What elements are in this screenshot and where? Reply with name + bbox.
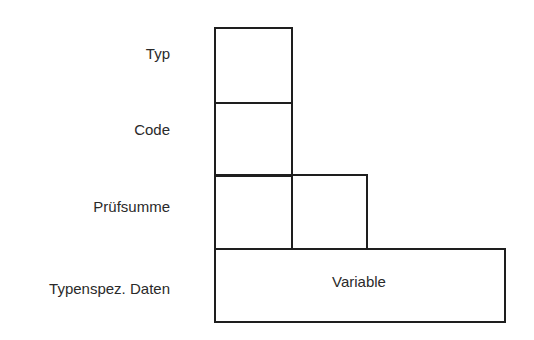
field-code — [214, 102, 293, 177]
field-typenspez-daten-content: Variable — [332, 273, 386, 291]
field-pruefsumme-byte-2 — [291, 174, 368, 250]
row-label-typenspez-daten: Typenspez. Daten — [49, 280, 170, 298]
row-label-typ: Typ — [146, 45, 170, 63]
row-label-code: Code — [134, 121, 170, 139]
field-pruefsumme-byte-1 — [214, 174, 293, 250]
field-typ — [214, 27, 293, 104]
row-label-pruefsumme: Prüfsumme — [93, 198, 170, 216]
packet-format-diagram: Typ Code Prüfsumme Typenspez. Daten Vari… — [0, 0, 534, 340]
